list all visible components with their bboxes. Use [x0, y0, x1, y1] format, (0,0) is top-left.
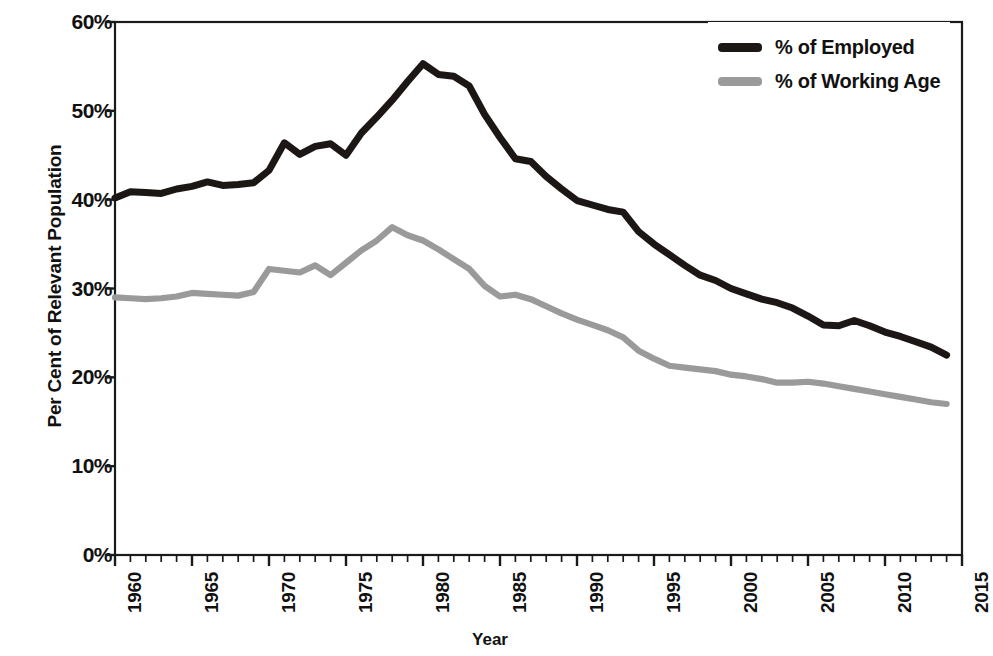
legend-swatch-icon [718, 77, 762, 86]
legend-item-employed[interactable]: % of Employed [718, 30, 940, 64]
legend-item-label: % of Employed [775, 36, 914, 59]
legend-swatch-icon [718, 43, 762, 52]
series-layer [115, 64, 947, 404]
legend-item-label: % of Working Age [775, 70, 940, 93]
chart-legend: % of Employed % of Working Age [708, 22, 950, 108]
legend-item-working-age[interactable]: % of Working Age [718, 64, 940, 98]
x-axis-title: Year [0, 630, 980, 650]
series-line [115, 227, 947, 404]
